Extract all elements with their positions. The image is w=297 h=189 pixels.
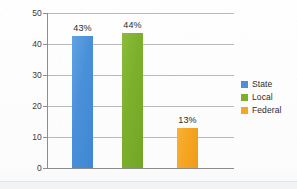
legend-item-state[interactable]: State <box>241 78 282 90</box>
bar-chart: 50 40 30 20 10 0 43% 44% 13% State Local… <box>0 0 297 189</box>
legend-label-local: Local <box>252 92 273 102</box>
ytick-label-10: 10 <box>2 132 42 142</box>
ytick-label-0: 0 <box>2 163 42 173</box>
bar-state[interactable] <box>72 36 93 168</box>
ytick-label-30: 30 <box>2 70 42 80</box>
ytick-label-50: 50 <box>2 8 42 18</box>
legend-item-federal[interactable]: Federal <box>241 104 282 116</box>
ytick-label-40: 40 <box>2 39 42 49</box>
ytick-label-20: 20 <box>2 101 42 111</box>
gridline-50 <box>48 13 234 14</box>
y-axis-line <box>47 13 48 169</box>
data-label-local: 44% <box>116 20 149 30</box>
chart-legend: State Local Federal <box>241 78 282 117</box>
legend-label-federal: Federal <box>252 105 282 115</box>
legend-swatch-local-icon <box>241 94 248 101</box>
data-label-state: 43% <box>66 23 99 33</box>
x-axis-line <box>47 168 234 169</box>
bar-federal[interactable] <box>177 128 198 168</box>
legend-swatch-state-icon <box>241 81 248 88</box>
scan-edge-band <box>0 181 297 189</box>
bar-local[interactable] <box>122 33 143 168</box>
legend-item-local[interactable]: Local <box>241 91 282 103</box>
legend-swatch-federal-icon <box>241 107 248 114</box>
data-label-federal: 13% <box>171 115 204 125</box>
legend-label-state: State <box>252 79 272 89</box>
